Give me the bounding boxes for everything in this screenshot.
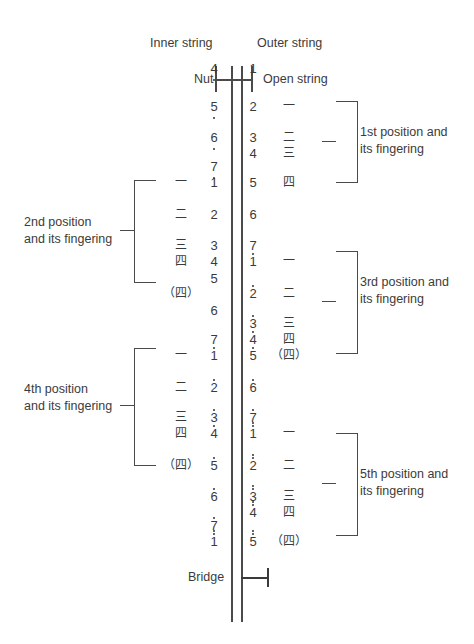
- inner-string-note: 7: [205, 160, 223, 173]
- bridge-bar: [241, 577, 269, 579]
- inner-string-note: 1: [205, 349, 223, 362]
- inner-fingering-mark: 一: [172, 349, 190, 361]
- note-number: 7: [210, 159, 217, 174]
- note-number: 5: [210, 271, 217, 286]
- inner-string-note: 1: [205, 176, 223, 189]
- position-1-label: 1st position and its fingering: [360, 124, 448, 158]
- note-number: 4: [210, 254, 217, 269]
- note-number: 3: [210, 238, 217, 253]
- inner-fingering-mark: 四: [172, 255, 190, 267]
- bracket-position-1: [322, 101, 358, 183]
- octave-dot-above: [244, 250, 262, 255]
- octave-dot-above: [205, 344, 223, 349]
- bracket-position-5: [322, 433, 358, 536]
- octave-dot-above: [244, 406, 262, 411]
- note-number: 6: [210, 489, 217, 504]
- octave-dot-above: [244, 282, 262, 287]
- octave-dot-below: [205, 76, 223, 81]
- note-number: 5: [210, 99, 217, 114]
- outer-string-note: 6: [244, 208, 262, 221]
- inner-string-note: 3: [205, 239, 223, 252]
- inner-fingering-mark: 二: [172, 208, 190, 220]
- inner-string-note: 4: [205, 255, 223, 268]
- octave-dots-above: [244, 482, 262, 488]
- inner-string-note: 2: [205, 381, 223, 394]
- outer-fingering-mark: 四: [280, 333, 298, 345]
- nut-note-outer: 1: [244, 62, 262, 75]
- outer-string-heading: Outer string: [257, 36, 322, 50]
- inner-fingering-mark: 四: [172, 427, 190, 439]
- outer-fingering-mark: 二: [280, 131, 298, 143]
- note-number: 4: [210, 426, 217, 441]
- inner-string-note: 6: [205, 304, 223, 317]
- position-5-label: 5th position and its fingering: [360, 466, 448, 500]
- note-number: 4: [249, 505, 256, 520]
- inner-string-note: 6: [205, 131, 223, 144]
- bridge-label: Bridge: [188, 570, 224, 584]
- octave-dot-above: [244, 344, 262, 349]
- octave-dot-above: [205, 376, 223, 381]
- note-number: 5: [210, 458, 217, 473]
- outer-fingering-mark: 四: [280, 506, 298, 518]
- outer-string-note: 4: [244, 506, 262, 519]
- bridge-right-cap: [267, 568, 269, 587]
- bracket-position-3: [322, 251, 358, 354]
- inner-string-note: 5: [205, 459, 223, 472]
- outer-string-note: 2: [244, 459, 262, 472]
- outer-string-note: 6: [244, 381, 262, 394]
- outer-fingering-mark: 四: [280, 176, 298, 188]
- outer-fingering-mark: （四）: [266, 349, 312, 361]
- outer-fingering-mark: 二: [280, 459, 298, 471]
- bracket-position-2: [134, 180, 170, 283]
- note-number: 5: [249, 534, 256, 549]
- note-number: 2: [210, 380, 217, 395]
- note-number: 3: [249, 130, 256, 145]
- outer-fingering-mark: 三: [280, 490, 298, 502]
- outer-fingering-mark: 三: [280, 147, 298, 159]
- octave-dots-above: [205, 527, 223, 533]
- note-number: 1: [249, 254, 256, 269]
- note-number: 2: [249, 286, 256, 301]
- note-number: 2: [249, 458, 256, 473]
- octave-dots-above: [244, 527, 262, 533]
- inner-string-line: [231, 66, 233, 622]
- open-string-label: Open string: [263, 72, 328, 86]
- note-number: 1: [210, 175, 217, 190]
- outer-string-note: 2: [244, 100, 262, 113]
- octave-dots-above: [244, 498, 262, 504]
- outer-string-note: 5: [244, 176, 262, 189]
- octave-dot-above: [205, 454, 223, 459]
- octave-dot-below: [205, 145, 223, 150]
- octave-dot-above: [244, 376, 262, 381]
- inner-fingering-mark: 三: [172, 411, 190, 423]
- octave-dot-above: [244, 312, 262, 317]
- outer-fingering-mark: 二: [280, 287, 298, 299]
- note-number: 6: [210, 303, 217, 318]
- inner-string-note: 5: [205, 272, 223, 285]
- octave-dot-above: [205, 514, 223, 519]
- octave-dot-above: [205, 422, 223, 427]
- outer-fingering-mark: （四）: [266, 535, 312, 547]
- outer-fingering-mark: 三: [280, 317, 298, 329]
- note-number: 2: [210, 207, 217, 222]
- inner-fingering-mark: （四）: [158, 287, 204, 299]
- outer-string-note: 5: [244, 349, 262, 362]
- outer-string-note: 5: [244, 535, 262, 548]
- octave-dots-above: [244, 419, 262, 425]
- outer-string-note: 4: [244, 147, 262, 160]
- inner-string-note: 1: [205, 535, 223, 548]
- note-number: 1: [210, 348, 217, 363]
- inner-fingering-mark: 三: [172, 239, 190, 251]
- note-number: 6: [249, 380, 256, 395]
- inner-fingering-mark: 二: [172, 381, 190, 393]
- note-number: 1: [249, 426, 256, 441]
- position-3-label: 3rd position and its fingering: [360, 274, 449, 308]
- note-number: 5: [249, 348, 256, 363]
- inner-string-note: 2: [205, 208, 223, 221]
- inner-string-note: 5: [205, 100, 223, 113]
- note-number: 5: [249, 175, 256, 190]
- outer-fingering-mark: 一: [280, 427, 298, 439]
- bracket-position-4: [134, 348, 170, 466]
- note-number: 6: [249, 207, 256, 222]
- note-number: 1: [210, 534, 217, 549]
